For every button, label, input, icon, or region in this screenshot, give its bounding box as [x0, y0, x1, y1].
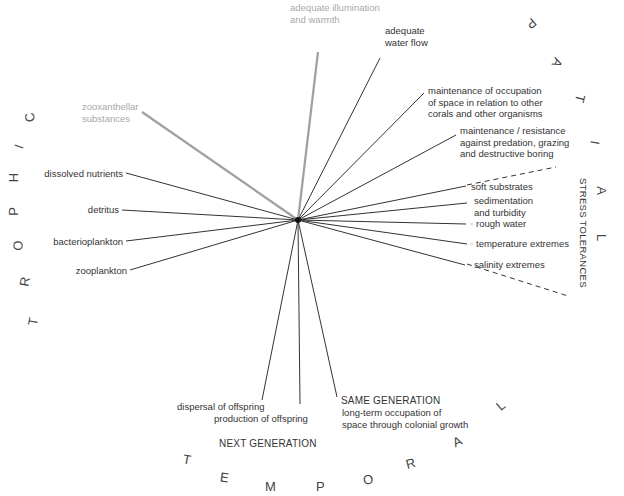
label-zooxanthellar: zooxanthellar substances	[82, 101, 142, 124]
arc-letter-spatial: L	[594, 234, 609, 241]
label-rough-water: ◦ rough water	[470, 218, 526, 230]
label-illumination: adequate illumination and warmth	[290, 2, 380, 25]
arc-letter-trophic: O	[10, 240, 26, 251]
label-sedimentation: sedimentation and turbidity	[474, 195, 533, 218]
label-salinity: ◦ salinity extremes	[468, 259, 545, 271]
label-line: space through colonial growth	[342, 419, 468, 431]
arc-letter-temporal: E	[219, 469, 230, 485]
spoke-same-generation	[298, 220, 337, 397]
spoke-salinity	[298, 220, 465, 265]
hub-node	[295, 217, 301, 223]
label-water-flow: adequate water flow	[385, 25, 428, 48]
spoke-occupation	[298, 93, 424, 220]
spoke-soft-substrates	[298, 186, 466, 220]
arc-letter-temporal: M	[265, 479, 276, 494]
label-production: production of offspring	[214, 413, 308, 425]
label-text: rough water	[476, 218, 526, 229]
label-line: and warmth	[290, 14, 380, 26]
arc-letter-temporal: O	[362, 471, 374, 487]
label-line: long-term occupation of	[342, 407, 468, 419]
spoke-dissolved-nutrients	[126, 173, 298, 220]
label-line: against predation, grazing	[460, 137, 569, 149]
label-line: maintenance / resistance	[460, 125, 569, 137]
label-temperature: ◦ temperature extremes	[470, 238, 569, 250]
spoke-bacterioplankton	[126, 220, 298, 241]
label-same-generation-title: SAME GENERATION	[341, 395, 441, 406]
label-line: and destructive boring	[460, 148, 569, 160]
label-line: and turbidity	[474, 207, 533, 219]
label-line: maintenance of occupation	[428, 85, 543, 97]
spoke-detritus	[122, 210, 298, 220]
label-soft-substrates: soft substrates	[471, 181, 533, 193]
arc-letter-temporal: P	[316, 479, 325, 494]
spoke-production	[298, 220, 300, 404]
label-line: adequate	[385, 25, 428, 37]
spoke-water-flow	[298, 58, 380, 220]
label-occupation: maintenance of occupation of space in re…	[428, 85, 543, 120]
arc-letter-spatial: A	[594, 186, 609, 195]
label-line: zooxanthellar	[82, 101, 142, 113]
spoke-sedimentation	[298, 203, 467, 220]
spoke-zooplankton	[130, 220, 298, 270]
label-stress-tolerances: STRESS TOLERANCES	[578, 178, 589, 288]
spoke-illumination	[298, 52, 318, 220]
label-dispersal: dispersal of offspring	[177, 401, 265, 413]
arc-letter-trophic: H	[6, 173, 21, 182]
label-line: sedimentation	[474, 195, 533, 207]
label-line: adequate illumination	[290, 2, 380, 14]
label-line: water flow	[385, 37, 428, 49]
label-next-generation: NEXT GENERATION	[219, 438, 317, 449]
label-predation: maintenance / resistance against predati…	[460, 125, 569, 160]
label-same-generation: long-term occupation of space through co…	[342, 407, 468, 430]
spoke-predation	[298, 135, 456, 220]
spoke-dispersal	[262, 220, 298, 400]
label-text: salinity extremes	[474, 259, 545, 270]
label-line: of space in relation to other	[428, 97, 543, 109]
spoke-zooxanthellar	[142, 112, 298, 220]
label-line: corals and other organisms	[428, 108, 543, 120]
arc-letter-trophic: P	[6, 207, 21, 216]
label-text: temperature extremes	[476, 238, 569, 249]
label-line: substances	[82, 113, 142, 125]
